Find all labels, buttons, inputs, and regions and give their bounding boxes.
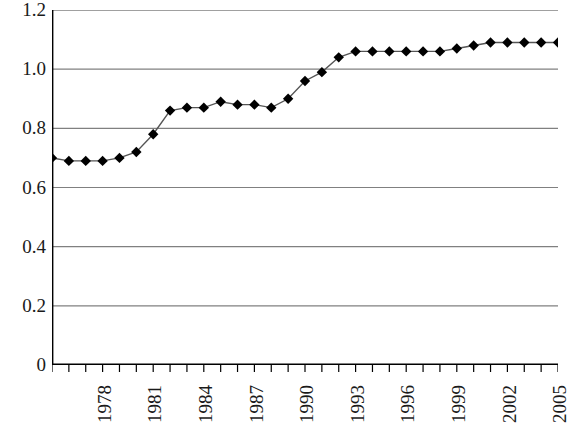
x-axis-tick-label: 1981 [145,385,164,423]
x-axis-tick-label: 2005 [550,385,569,423]
x-axis-tick-label: 1987 [247,385,266,423]
x-axis-tick-label: 1996 [398,385,417,423]
x-axis-tick-label: 1990 [297,385,316,423]
x-axis-tick-label: 1999 [449,385,468,423]
x-axis-tick-label: 2002 [500,385,519,423]
x-axis-tick-label: 1993 [348,385,367,423]
x-axis-tick-label: 1984 [196,385,215,423]
x-axis-tick-label: 1978 [95,385,114,423]
